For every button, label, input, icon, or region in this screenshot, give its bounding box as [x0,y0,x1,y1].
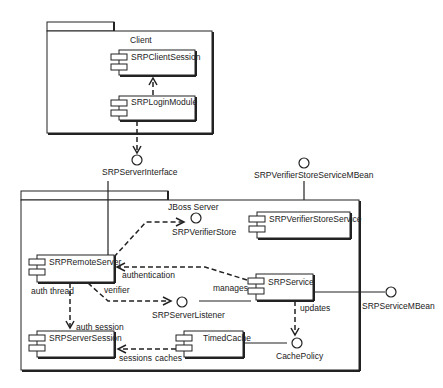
svg-text:CachePolicy: CachePolicy [276,351,324,361]
interface-lollipop-icon [386,287,396,297]
component-srp-service[interactable]: SRPService [248,274,314,301]
svg-text:TimedCache: TimedCache [203,333,251,343]
svg-text:caches: caches [155,353,182,363]
svg-text:updates: updates [300,303,330,313]
interface-lollipop-icon [191,213,201,223]
svg-text:auth thread: auth thread [31,286,74,296]
jboss-package-tab [21,191,168,200]
component-srp-login-module[interactable]: SRPLoginModule [111,96,197,121]
client-package-tab [47,22,114,31]
interface-srp-server-interface: SRPServerInterface [102,155,178,177]
component-srp-remote-server[interactable]: SRPRemoteServer [29,255,121,283]
interface-lollipop-icon [299,158,309,168]
svg-text:verifier: verifier [104,285,130,295]
svg-text:SRPVerifierStoreServiceMBean: SRPVerifierStoreServiceMBean [254,170,374,180]
svg-text:authentication: authentication [122,270,175,280]
svg-text:sessions: sessions [119,353,152,363]
component-diagram: Client SRPClientSession SRPLoginModule S… [0,0,443,388]
svg-text:SRPServiceMBean: SRPServiceMBean [362,301,435,311]
svg-text:SRPVerifierStoreService: SRPVerifierStoreService [269,214,362,224]
interface-lollipop-icon [292,338,302,348]
component-srp-client-session[interactable]: SRPClientSession [111,50,201,76]
svg-text:SRPVerifierStore: SRPVerifierStore [172,227,237,237]
svg-text:SRPServerInterface: SRPServerInterface [102,167,178,177]
svg-text:SRPService: SRPService [268,277,314,287]
svg-text:SRPServerSession: SRPServerSession [49,333,122,343]
jboss-package-label: JBoss Server [168,202,219,212]
svg-text:manages: manages [213,283,248,293]
svg-text:SRPClientSession: SRPClientSession [131,52,201,62]
component-srp-server-session[interactable]: SRPServerSession [29,331,122,358]
svg-text:SRPRemoteServer: SRPRemoteServer [49,257,121,267]
interface-lollipop-icon [177,297,187,307]
svg-text:SRPLoginModule: SRPLoginModule [131,97,197,107]
svg-text:SRPServerListener: SRPServerListener [152,310,225,320]
interface-lollipop-icon [132,155,142,165]
component-timed-cache[interactable]: TimedCache [176,331,251,358]
component-srp-verifier-store-service[interactable]: SRPVerifierStoreService [249,212,362,239]
client-package-label: Client [130,35,152,45]
